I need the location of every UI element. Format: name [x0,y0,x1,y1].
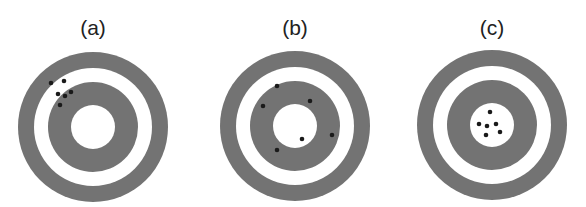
panel-label-a: (a) [63,14,123,42]
target-b [220,51,370,201]
shot-mark [49,81,54,86]
shot-mark [300,137,305,142]
shot-mark [484,133,489,138]
shot-mark [308,99,313,104]
panel-label-c: (c) [462,14,522,42]
shot-mark [69,90,74,95]
shot-mark [485,124,490,129]
shot-mark [477,122,482,127]
shot-mark [56,92,61,97]
shot-mark [488,110,493,115]
shot-mark [275,148,280,153]
shot-mark [498,130,503,135]
target-a [18,52,168,202]
shot-mark [62,79,67,84]
shot-mark [494,122,499,127]
shot-mark [58,103,63,108]
bullseye [71,105,115,149]
bullseye [273,104,317,148]
bullseye [470,103,514,147]
shot-mark [275,84,280,89]
target-c [417,50,567,200]
shot-mark [63,94,68,99]
shot-mark [261,104,266,109]
shot-mark [330,133,335,138]
panel-label-b: (b) [265,14,325,42]
